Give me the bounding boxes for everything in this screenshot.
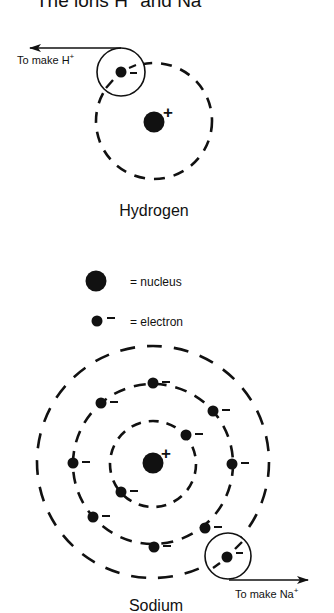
hydrogen-label: Hydrogen [119,202,188,219]
sodium-label: Sodium [129,597,183,613]
sodium-nucleus-sign: + [161,444,171,463]
sodium-inner-electron [116,487,127,498]
sodium-atom: + To make Na+ Sodium [37,346,308,613]
legend-electron-label: = electron [130,315,183,329]
sodium-valence-electron [222,552,233,563]
legend-nucleus-icon [86,271,107,292]
hydrogen-nucleus-sign: + [163,103,173,122]
hydrogen-arrow-label: To make H+ [17,52,75,66]
legend: = nucleus = electron [86,271,184,330]
sodium-middle-electron [208,406,219,417]
legend-electron-icon [92,316,103,327]
sodium-middle-electron [200,523,211,534]
sodium-middle-electron [96,398,107,409]
hydrogen-atom: + To make H+ Hydrogen [17,48,212,219]
hydrogen-nucleus [144,112,165,133]
sodium-inner-electron [181,430,192,441]
sodium-middle-electron [88,512,99,523]
sodium-middle-electron [68,458,79,469]
sodium-middle-electron [149,542,160,553]
ion-formation-diagram: The ions H+ and Na+ + To make H+ Hydroge… [0,0,334,613]
sodium-arrow-label: To make Na+ [235,586,299,600]
sodium-middle-electron [148,378,159,389]
legend-nucleus-label: = nucleus [130,275,182,289]
hydrogen-electron [116,67,127,78]
page-heading: The ions H+ and Na+ [36,0,208,11]
sodium-middle-electron [227,459,238,470]
